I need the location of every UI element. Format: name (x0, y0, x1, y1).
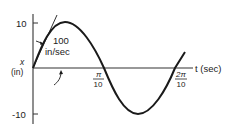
sine-wave-diagram: 10 -10 x (in) 100 in/sec π 10 2π 10 t (s… (0, 0, 232, 126)
x-axis-label: t (sec) (195, 63, 221, 74)
y-axis-unit-label: (in) (11, 67, 23, 77)
y-tick-label-10: 10 (16, 18, 27, 29)
y-tick-label-neg10: -10 (12, 109, 26, 120)
x-tick-label-pi-over-10-num: π (96, 70, 102, 79)
slope-annotation-value: 100 (53, 35, 69, 46)
x-tick-label-2pi-over-10-num: 2π (175, 70, 186, 79)
angle-arc-arrowhead (59, 70, 63, 75)
x-tick-label-pi-over-10-den: 10 (94, 80, 103, 89)
x-tick-label-2pi-over-10-den: 10 (177, 80, 186, 89)
slope-annotation-unit: in/sec (45, 46, 70, 57)
y-axis-var-label: x (19, 57, 25, 67)
